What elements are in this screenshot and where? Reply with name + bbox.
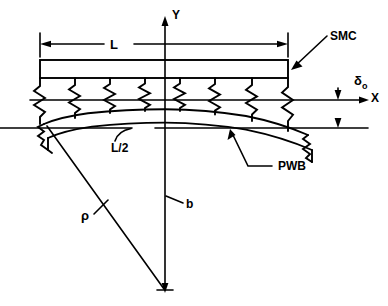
center-of-curvature-mark [157,283,173,293]
rho-radius-line [47,126,164,289]
label-span-L: L [110,38,118,51]
label-smc: SMC [330,30,357,42]
label-b: b [186,198,193,210]
half-span-leader [115,129,131,142]
smc-leader [291,36,327,70]
label-rho: ρ [81,209,89,222]
delta-o-dimension [335,88,342,128]
y-axis [162,16,169,290]
label-axis-x: X [371,92,379,104]
label-axis-y: Y [172,9,180,21]
label-delta-subscript: o [362,81,368,91]
label-delta-o: δo [354,74,367,91]
engineering-diagram: L Y X SMC δo L/2 PWB ρ b [0,0,388,306]
label-pwb: PWB [278,160,306,172]
b-radius-leader [166,196,183,203]
smc-body [40,60,288,78]
diagram-canvas [0,0,388,306]
label-half-span: L/2 [111,142,128,154]
dimension-line-L [40,33,288,57]
pwb-board [38,109,312,162]
x-axis [30,97,369,104]
label-delta-symbol: δ [354,73,362,88]
